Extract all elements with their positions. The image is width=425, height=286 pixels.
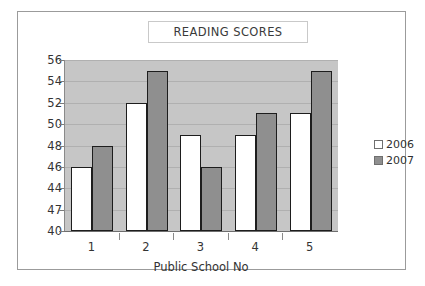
bar-group xyxy=(283,60,338,231)
bar-group xyxy=(120,60,175,231)
x-axis-title: Public School No xyxy=(64,260,338,274)
bar-2007-5 xyxy=(311,71,332,231)
bar-2007-2 xyxy=(147,71,168,231)
legend-swatch-2006 xyxy=(374,140,383,149)
bar-2007-1 xyxy=(92,146,113,232)
gridline-40 xyxy=(65,231,338,232)
bar-2006-1 xyxy=(71,167,92,231)
legend-item-2007: 2007 xyxy=(374,154,422,167)
bar-2006-2 xyxy=(126,103,147,231)
plot-area xyxy=(64,60,338,232)
chart-title-box: READING SCORES xyxy=(148,21,308,43)
legend-label: 2007 xyxy=(386,154,414,167)
x-axis-tick xyxy=(282,233,283,240)
bar-group xyxy=(229,60,284,231)
legend-swatch-2007 xyxy=(374,156,383,165)
x-axis-label: 3 xyxy=(181,240,221,254)
chart-frame: READING SCORES 404744464850525456 12345 … xyxy=(17,11,406,270)
bar-group xyxy=(65,60,120,231)
legend-item-2006: 2006 xyxy=(374,138,422,151)
bar-2006-4 xyxy=(235,135,256,231)
bar-2006-3 xyxy=(180,135,201,231)
x-axis-tick xyxy=(228,233,229,240)
bar-2007-3 xyxy=(201,167,222,231)
bar-2006-5 xyxy=(290,113,311,231)
chart-title: READING SCORES xyxy=(173,25,282,39)
x-axis-label: 5 xyxy=(290,240,330,254)
bar-2007-4 xyxy=(256,113,277,231)
x-axis-label: 4 xyxy=(235,240,275,254)
chart-legend: 20062007 xyxy=(374,138,422,167)
x-axis-tick xyxy=(119,233,120,240)
legend-label: 2006 xyxy=(386,138,414,151)
x-axis-labels: 12345 xyxy=(64,240,338,256)
x-axis-label: 1 xyxy=(71,240,111,254)
x-axis-tick xyxy=(173,233,174,240)
bar-group xyxy=(174,60,229,231)
x-axis-label: 2 xyxy=(126,240,166,254)
